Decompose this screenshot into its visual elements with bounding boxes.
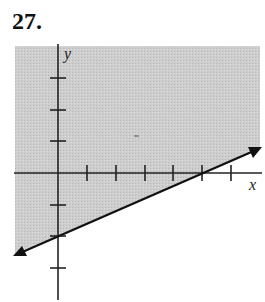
x-axis-label: x <box>248 176 256 193</box>
inequality-graph: y x <box>0 0 265 302</box>
shaded-region <box>15 46 260 253</box>
y-axis-label: y <box>62 45 72 63</box>
